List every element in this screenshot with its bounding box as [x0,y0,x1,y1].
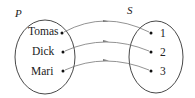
dot-tomas [61,32,64,35]
set-p-label: P [14,7,22,19]
mapping-diagram: P Tomas Dick Mari S 1 2 3 [0,0,195,98]
element-dick: Dick [32,45,55,57]
dot-dick [62,51,65,54]
element-2: 2 [160,46,166,58]
element-mari: Mari [31,65,53,77]
arrow-tomas-to-1 [64,21,149,32]
mapping-arrows [64,21,149,70]
arrow-mari-to-3 [65,61,149,70]
dot-2 [150,51,153,54]
arrow-dick-to-2 [65,42,149,51]
element-3: 3 [160,65,166,77]
set-s-ellipse [129,21,183,93]
dot-3 [150,70,153,73]
set-s-label: S [127,4,133,16]
dot-mari [62,70,65,73]
set-s: S 1 2 3 [127,4,183,93]
element-1: 1 [160,27,166,39]
arrowheads [103,20,109,61]
element-tomas: Tomas [28,25,59,37]
dot-1 [150,32,153,35]
